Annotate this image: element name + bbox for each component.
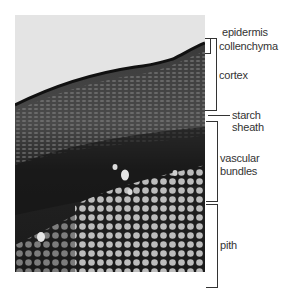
label-cortex: cortex xyxy=(219,69,248,81)
label-pith: pith xyxy=(220,239,237,251)
stem-micrograph xyxy=(15,15,205,272)
label-starch: starch xyxy=(232,109,261,121)
label-bundles: bundles xyxy=(220,165,257,177)
label-collenchyma: collenchyma xyxy=(219,40,278,52)
label-sheath: sheath xyxy=(232,121,264,133)
label-epidermis: epidermis xyxy=(222,26,268,38)
starch-sheath-pointer xyxy=(208,115,230,116)
bracket-vascular-bundles xyxy=(206,121,218,202)
bracket-cortex xyxy=(205,38,217,111)
label-vascular: vascular xyxy=(220,152,259,164)
bracket-pith xyxy=(206,204,218,288)
